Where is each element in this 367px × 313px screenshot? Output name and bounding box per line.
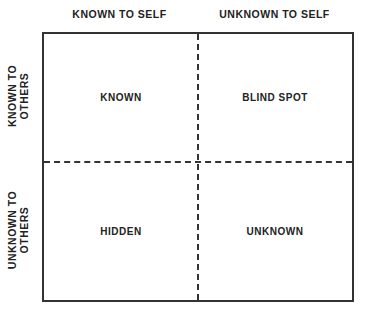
row-label-line: UNKNOWN TO [6,185,18,275]
column-label-known-to-self: KNOWN TO SELF [42,8,197,20]
horizontal-divider [44,161,352,163]
quadrant-hidden: HIDDEN [44,226,198,237]
quadrant-blind-spot: BLIND SPOT [198,92,352,103]
vertical-divider [197,34,199,300]
quadrant-unknown: UNKNOWN [198,226,352,237]
row-label-line: OTHERS [18,51,30,141]
row-label-line: KNOWN TO [6,51,18,141]
quadrant-grid: KNOWN BLIND SPOT HIDDEN UNKNOWN [42,32,354,302]
row-label-unknown-to-others: UNKNOWN TO OTHERS [6,185,30,275]
column-label-unknown-to-self: UNKNOWN TO SELF [197,8,352,20]
quadrant-known: KNOWN [44,92,198,103]
row-label-line: OTHERS [18,185,30,275]
row-label-known-to-others: KNOWN TO OTHERS [6,51,30,141]
